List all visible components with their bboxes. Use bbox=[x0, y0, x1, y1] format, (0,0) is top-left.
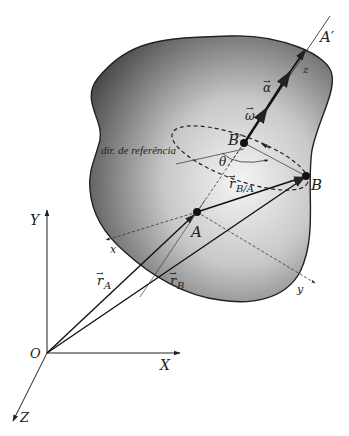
svg-text:→: → bbox=[246, 103, 254, 113]
label-a-prime: A′ bbox=[318, 28, 335, 46]
label-global-y: Y bbox=[30, 212, 41, 228]
point-a bbox=[193, 208, 201, 216]
diagram-canvas: A′ z α → ω → B′ dir. de referência θ B r… bbox=[0, 0, 349, 436]
label-x-local: x bbox=[110, 243, 117, 256]
rigid-body bbox=[90, 36, 333, 302]
label-r-a: r → A bbox=[96, 268, 111, 291]
global-z-axis bbox=[13, 353, 47, 421]
label-b-prime: B′ bbox=[227, 131, 243, 149]
point-b bbox=[302, 172, 310, 180]
svg-text:→: → bbox=[96, 268, 104, 278]
label-y-local: y bbox=[296, 283, 304, 296]
svg-text:→: → bbox=[228, 171, 236, 181]
svg-text:B/A: B/A bbox=[235, 183, 254, 194]
label-z: z bbox=[302, 64, 309, 75]
label-theta: θ bbox=[219, 155, 227, 169]
label-origin: O bbox=[30, 346, 41, 361]
svg-text:B: B bbox=[176, 280, 184, 291]
label-reference-direction: dir. de referência bbox=[101, 144, 177, 156]
label-a: A bbox=[189, 223, 202, 241]
svg-text:→: → bbox=[263, 76, 271, 86]
svg-text:A: A bbox=[103, 280, 111, 291]
svg-text:→: → bbox=[169, 268, 177, 278]
label-global-x: X bbox=[159, 357, 171, 373]
label-b: B bbox=[310, 176, 322, 194]
label-global-z: Z bbox=[19, 410, 30, 425]
rigid-body-diagram: A′ z α → ω → B′ dir. de referência θ B r… bbox=[0, 0, 349, 436]
